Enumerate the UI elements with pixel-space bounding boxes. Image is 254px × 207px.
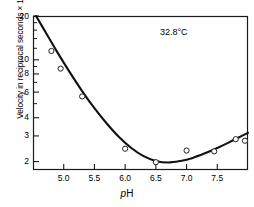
data-point-marker xyxy=(212,149,217,154)
y-tick-label: 2 xyxy=(11,156,29,166)
fitted-curve xyxy=(36,16,248,163)
x-tick-label: 6.5 xyxy=(141,173,171,183)
y-tick-label: 4 xyxy=(11,112,29,122)
data-point-marker xyxy=(184,148,189,153)
x-tick-label: 6.0 xyxy=(110,173,140,183)
y-tick-label: 10 xyxy=(11,54,29,64)
data-point-marker xyxy=(123,146,128,151)
y-tick-label: 6 xyxy=(11,87,29,97)
y-tick-label: 3 xyxy=(11,130,29,140)
x-axis-label: pH xyxy=(0,188,254,199)
data-point-marker xyxy=(58,66,63,71)
data-point-marker xyxy=(242,138,247,143)
chart-figure: Velocity in reciprocal seconds × 1,000 p… xyxy=(0,0,254,207)
x-tick-label: 5.0 xyxy=(49,173,79,183)
plot-frame xyxy=(34,17,248,170)
x-tick-label: 7.0 xyxy=(172,173,202,183)
y-tick-label: 8 xyxy=(11,68,29,78)
temperature-annotation: 32.8°C xyxy=(160,27,188,37)
data-point-marker xyxy=(80,94,85,99)
x-tick-label: 5.5 xyxy=(79,173,109,183)
y-tick-label: 20 xyxy=(11,11,29,21)
data-point-marker xyxy=(233,137,238,142)
x-axis-label-rest: H xyxy=(126,188,133,199)
data-point-marker xyxy=(153,160,158,165)
x-tick-label: 7.5 xyxy=(202,173,232,183)
data-point-marker xyxy=(49,48,54,53)
